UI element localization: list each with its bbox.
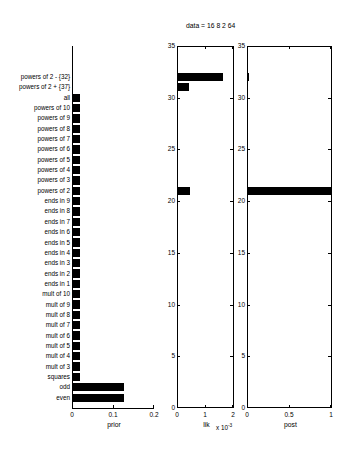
category-label-29: all: [0, 94, 72, 101]
xtick-top-post-1: [289, 46, 290, 49]
category-label-9: mult of 9: [0, 301, 72, 308]
bar-prior-4: [73, 352, 80, 360]
yticklabel-lik-0: 0: [161, 404, 175, 411]
ytick-left-post-2: [247, 305, 250, 306]
ytick-left-post-7: [247, 46, 250, 47]
bar-prior-15: [73, 238, 80, 246]
category-label-26: powers of 8: [0, 125, 72, 132]
figure-canvas: data = 16 8 2 64 00.10.2 prior evenoddsq…: [0, 0, 338, 461]
bar-prior-20: [73, 187, 80, 195]
ytick-left-lik-1: [177, 356, 180, 357]
bar-prior-23: [73, 156, 80, 164]
bar-prior-5: [73, 342, 80, 350]
ytick-right-post-0: [328, 407, 331, 408]
bar-prior-0: [73, 394, 124, 402]
bar-prior-10: [73, 290, 80, 298]
category-label-16: ends in 6: [0, 228, 72, 235]
category-label-7: mult of 7: [0, 321, 72, 328]
xtick-prior-1: [113, 405, 114, 408]
category-label-25: powers of 7: [0, 135, 72, 142]
yticklabel-post-3: 15: [231, 249, 245, 256]
bar-prior-14: [73, 249, 80, 257]
category-label-18: ends in 8: [0, 207, 72, 214]
bar-prior-21: [73, 176, 80, 184]
lik-exponent-label: x 10-3: [216, 422, 232, 431]
xticklabel-lik-1: 1: [193, 411, 217, 418]
lik-plot-box: [177, 46, 234, 408]
yticklabel-lik-4: 20: [161, 197, 175, 204]
ytick-right-post-6: [328, 98, 331, 99]
bar-post-20: [248, 187, 331, 195]
category-label-27: powers of 9: [0, 114, 72, 121]
xticklabel-lik-0: 0: [165, 411, 189, 418]
yticklabel-post-4: 20: [231, 197, 245, 204]
category-label-12: ends in 2: [0, 270, 72, 277]
category-label-23: powers of 5: [0, 156, 72, 163]
xticklabel-post-1: 0.5: [277, 411, 301, 418]
xticklabel-prior-0: 0: [60, 411, 84, 418]
bar-prior-3: [73, 362, 80, 370]
category-label-22: powers of 4: [0, 166, 72, 173]
ytick-left-post-4: [247, 201, 250, 202]
bar-prior-29: [73, 94, 80, 102]
yticklabel-lik-2: 10: [161, 301, 175, 308]
bar-prior-17: [73, 218, 80, 226]
chart-prior: [72, 46, 154, 408]
yticklabel-lik-5: 25: [161, 145, 175, 152]
bar-prior-6: [73, 331, 80, 339]
chart-lik: [177, 46, 234, 408]
yticklabel-lik-6: 30: [161, 94, 175, 101]
yticklabel-lik-7: 35: [161, 42, 175, 49]
category-label-30: powers of 2 + {37}: [0, 83, 72, 90]
category-label-20: powers of 2: [0, 187, 72, 194]
bar-prior-24: [73, 145, 80, 153]
lik-exponent-power: -3: [228, 423, 232, 428]
category-label-19: ends in 9: [0, 197, 72, 204]
category-label-8: mult of 8: [0, 311, 72, 318]
prior-x-axis: [72, 408, 154, 409]
ytick-left-post-3: [247, 253, 250, 254]
ytick-right-post-2: [328, 305, 331, 306]
ytick-right-post-7: [328, 46, 331, 47]
category-label-5: mult of 5: [0, 342, 72, 349]
category-label-24: powers of 6: [0, 145, 72, 152]
ytick-right-post-1: [328, 356, 331, 357]
ytick-left-lik-2: [177, 305, 180, 306]
bar-prior-25: [73, 135, 80, 143]
bar-post-31: [248, 73, 249, 81]
ytick-left-lik-4: [177, 201, 180, 202]
bar-prior-2: [73, 373, 80, 381]
bar-prior-1: [73, 383, 124, 391]
xticklabel-post-2: 1: [319, 411, 338, 418]
bar-prior-18: [73, 207, 80, 215]
bar-lik-30: [178, 83, 189, 91]
ytick-left-lik-3: [177, 253, 180, 254]
category-label-17: ends in 7: [0, 218, 72, 225]
ytick-left-lik-6: [177, 98, 180, 99]
yticklabel-post-1: 5: [231, 352, 245, 359]
category-label-13: ends in 3: [0, 259, 72, 266]
ytick-left-post-6: [247, 98, 250, 99]
ytick-right-post-4: [328, 201, 331, 202]
xticklabel-prior-2: 0.2: [142, 411, 166, 418]
yticklabel-post-7: 35: [231, 42, 245, 49]
yticklabel-post-5: 25: [231, 145, 245, 152]
category-label-10: mult of 10: [0, 290, 72, 297]
bar-prior-11: [73, 280, 80, 288]
bar-prior-27: [73, 114, 80, 122]
category-label-6: mult of 6: [0, 332, 72, 339]
bar-prior-8: [73, 311, 80, 319]
xtick-post-1: [289, 405, 290, 408]
ytick-left-lik-0: [177, 407, 180, 408]
ytick-right-post-5: [328, 149, 331, 150]
post-x-axis-label: post: [248, 421, 333, 429]
bar-prior-19: [73, 197, 80, 205]
category-label-31: powers of 2 - {32}: [0, 73, 72, 80]
xticklabel-post-0: 0: [235, 411, 259, 418]
lik-exponent-mantissa: x 10: [216, 424, 228, 431]
category-label-4: mult of 4: [0, 352, 72, 359]
yticklabel-lik-3: 15: [161, 249, 175, 256]
bar-lik-31: [178, 73, 223, 81]
yticklabel-lik-1: 5: [161, 352, 175, 359]
category-label-0: even: [0, 394, 72, 401]
